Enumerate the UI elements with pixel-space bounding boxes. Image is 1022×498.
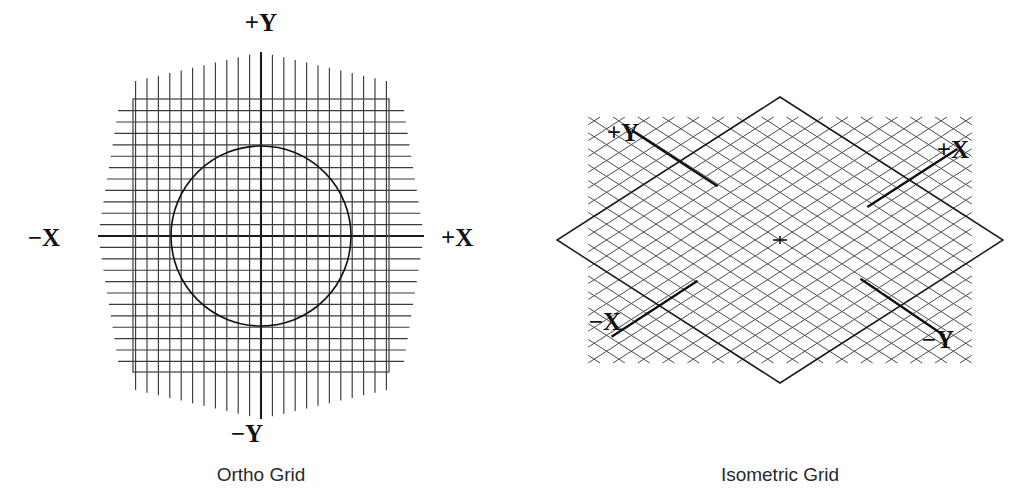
ortho-grid-lines: [98, 52, 424, 419]
ortho-negative-x-label: −X: [28, 224, 60, 251]
isometric-grid-caption: Isometric Grid: [721, 464, 839, 485]
technical-grid-figure: +Y −Y +X −X Ortho Grid +Y +X −X −Y Isome…: [0, 0, 1022, 498]
ortho-grid-panel: +Y −Y +X −X Ortho Grid: [28, 9, 474, 485]
figure-root: +Y −Y +X −X Ortho Grid +Y +X −X −Y Isome…: [0, 0, 1022, 498]
ortho-positive-y-label: +Y: [245, 9, 277, 36]
ortho-positive-x-label: +X: [441, 224, 473, 251]
ortho-grid-caption: Ortho Grid: [217, 464, 306, 485]
isometric-positive-x-label: +X: [937, 136, 969, 163]
isometric-negative-x-label: −X: [589, 308, 621, 335]
isometric-negative-y-label: −Y: [922, 326, 954, 353]
isometric-grid-panel: +Y +X −X −Y Isometric Grid: [557, 97, 1003, 485]
isometric-positive-y-label: +Y: [607, 119, 639, 146]
ortho-negative-y-label: −Y: [231, 420, 263, 447]
